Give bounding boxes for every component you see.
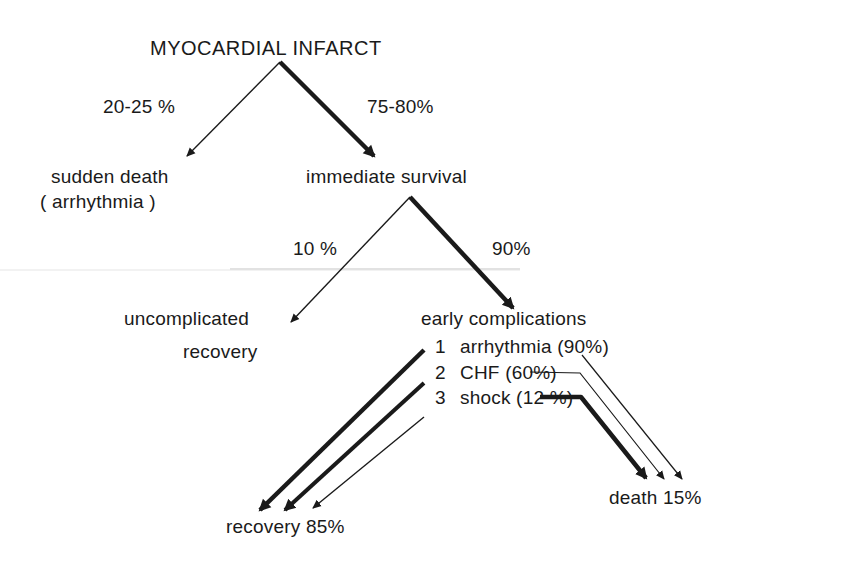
sudden-death-percent: 20-25 % bbox=[103, 96, 175, 118]
immediate-survival-label: immediate survival bbox=[306, 166, 467, 188]
sudden-death-label: sudden death bbox=[51, 166, 169, 188]
root-label: MYOCARDIAL INFARCT bbox=[150, 37, 382, 59]
death-outcome-label: death 15% bbox=[609, 487, 702, 509]
complication-2-num: 2 bbox=[435, 362, 446, 384]
complication-1-label: arrhythmia (90%) bbox=[460, 336, 609, 358]
complication-3-label: shock (12 %) bbox=[460, 387, 573, 409]
arrow-arrhythmia-to-recovery bbox=[260, 350, 424, 510]
arrows-layer bbox=[0, 0, 857, 561]
complication-1-num: 1 bbox=[435, 336, 446, 358]
arrow-to-immediate-survival bbox=[280, 62, 374, 156]
diagram-canvas: MYOCARDIAL INFARCT 20-25 % 75-80% sudden… bbox=[0, 0, 857, 561]
complication-3-num: 3 bbox=[435, 387, 446, 409]
early-complications-label: early complications bbox=[421, 308, 586, 330]
arrow-to-sudden-death bbox=[187, 62, 280, 156]
uncomplicated-label: uncomplicated bbox=[124, 308, 249, 330]
arrow-shock-to-death bbox=[540, 397, 646, 478]
early-complications-percent: 90% bbox=[492, 238, 531, 260]
sudden-death-sublabel: ( arrhythmia ) bbox=[40, 191, 156, 213]
arrow-shock-to-recovery bbox=[313, 417, 424, 508]
arrow-chf-to-recovery bbox=[285, 383, 424, 510]
immediate-survival-percent: 75-80% bbox=[367, 96, 434, 118]
uncomplicated-percent: 10 % bbox=[293, 238, 337, 260]
complication-2-label: CHF (60%) bbox=[460, 362, 557, 384]
uncomplicated-sublabel: recovery bbox=[183, 341, 257, 363]
recovery-outcome-label: recovery 85% bbox=[226, 516, 345, 538]
